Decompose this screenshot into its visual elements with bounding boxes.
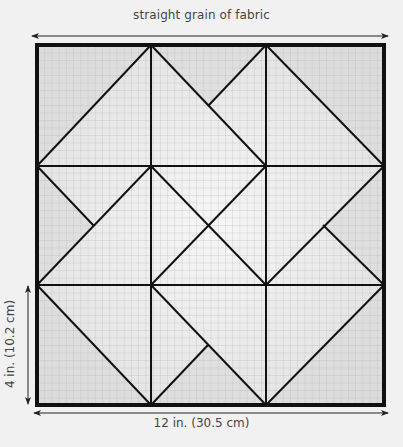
quilt-block-diagram [0,0,403,447]
block-width-label: 12 in. (30.5 cm) [0,416,403,430]
graph-grid [37,45,384,405]
unit-height-label: 4 in. (10.2 cm) [3,289,17,399]
